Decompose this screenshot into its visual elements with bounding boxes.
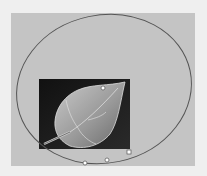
anchor-handle-corner[interactable] bbox=[127, 150, 131, 154]
anchor-handle-bottom-1[interactable] bbox=[83, 161, 87, 165]
anchor-handle-top[interactable] bbox=[101, 86, 105, 90]
editing-canvas[interactable] bbox=[0, 0, 207, 176]
anchor-handle-bottom-2[interactable] bbox=[105, 158, 109, 162]
